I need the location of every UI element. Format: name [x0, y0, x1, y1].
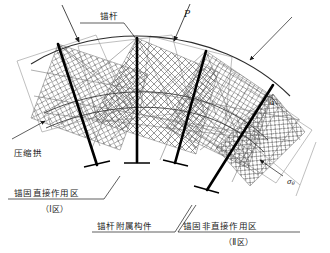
bolt-plate-marks: [84, 160, 219, 193]
figure-canvas: 锚杆 P 压缩拱 锚固直接作用区 （Ⅰ区） 锚杆附属构件 锚固非直接作用区 （Ⅱ…: [0, 0, 330, 253]
compression-arch-label: 压缩拱: [14, 146, 42, 158]
zone1-tag: （Ⅰ区）: [41, 203, 69, 214]
arch-leader-right: [250, 17, 292, 60]
sigma-label: σθ: [287, 178, 295, 186]
compression-cone-zones: [31, 38, 305, 186]
zone2-tag: （Ⅱ区）: [224, 236, 253, 247]
bolt-label: 锚杆: [100, 9, 119, 21]
accessory-label: 锚杆附属构件: [97, 219, 153, 231]
zone2-label: 锚固非直接作用区: [183, 219, 257, 231]
compression-arch-leader: [12, 121, 45, 139]
angle-label: α: [270, 99, 275, 107]
load-arrow-left: [62, 5, 79, 42]
zone1-label: 锚固直接作用区: [14, 186, 79, 198]
load-label: P: [184, 9, 190, 19]
diagram-svg: [0, 0, 330, 253]
